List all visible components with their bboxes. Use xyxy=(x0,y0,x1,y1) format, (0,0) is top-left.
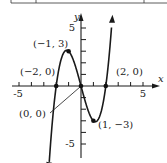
point-marker xyxy=(91,119,96,124)
label-origin: (0, 0) xyxy=(19,108,46,119)
point-marker xyxy=(66,49,71,54)
point-marker xyxy=(54,84,59,89)
curve-arrow-down-icon xyxy=(46,162,52,163)
table-border-remnant xyxy=(11,0,167,3)
axes xyxy=(12,13,160,158)
y-tick-label-5: 5 xyxy=(69,22,75,33)
point-marker xyxy=(104,84,109,89)
label-root-2: (2, 0) xyxy=(116,66,143,77)
label-root-neg2: (−2, 0) xyxy=(20,66,55,77)
y-axis-label: y xyxy=(73,11,80,22)
x-tick-label-5: 5 xyxy=(140,88,146,99)
label-local-max: (−1, 3) xyxy=(33,38,68,49)
x-axis-label: x xyxy=(158,73,164,84)
y-tick-label-neg5: -5 xyxy=(65,138,75,149)
x-axis-arrow-icon xyxy=(152,84,160,89)
function-graph: (−1, 3)(−2, 0)(2, 0)(0, 0)(1, −3)-555-5x… xyxy=(0,0,167,163)
labels: (−1, 3)(−2, 0)(2, 0)(0, 0)(1, −3)-555-5x… xyxy=(13,11,164,149)
label-local-min: (1, −3) xyxy=(98,119,133,130)
curve-arrow-up-icon xyxy=(109,15,115,23)
x-tick-label-neg5: -5 xyxy=(13,88,23,99)
